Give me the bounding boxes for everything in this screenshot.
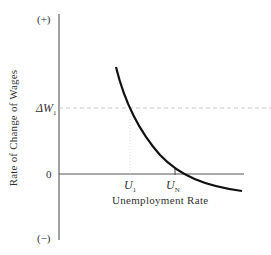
phillips-curve-chart: [0, 0, 271, 255]
un-main: U: [166, 178, 175, 192]
un-label: UN: [166, 179, 180, 194]
dw1-main: ΔW: [36, 101, 53, 115]
u1-label: U1: [124, 179, 136, 194]
dw1-sub: 1: [53, 109, 57, 117]
y-plus-label: (+): [37, 14, 51, 25]
phillips-curve: [116, 67, 242, 191]
dw1-label: ΔW1: [36, 102, 57, 117]
x-axis-label: Unemployment Rate: [112, 195, 208, 206]
y-zero-label: 0: [46, 169, 52, 180]
y-axis-label: Rate of Change of Wages: [7, 70, 19, 187]
y-minus-label: (−): [37, 233, 51, 244]
u1-main: U: [124, 178, 133, 192]
